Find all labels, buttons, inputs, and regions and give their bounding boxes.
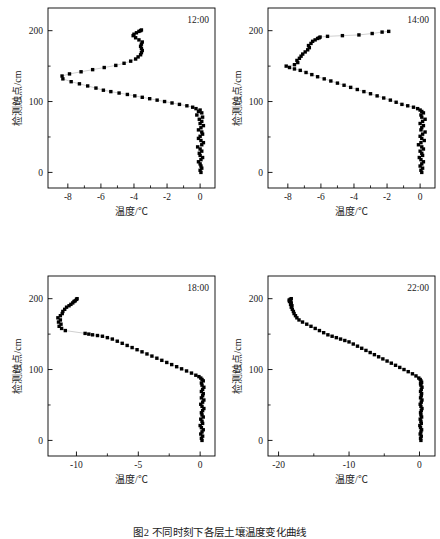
x-tick-label: -4 [350,192,358,202]
panel-time-label: 22:00 [407,283,429,293]
x-axis-title: 温度/℃ [115,473,148,485]
y-tick-label: 100 [29,97,44,107]
data-point [318,35,321,38]
data-point [385,359,388,362]
data-point [129,59,132,62]
data-point [389,98,392,101]
data-point [135,348,138,351]
data-line [286,31,425,172]
data-point [360,347,363,350]
chart-plot-0: -8-6-4-20010020012:00温度/℃检测触点/cm [0,0,220,268]
data-point [101,335,104,338]
panel-time-label: 14:00 [407,15,429,25]
data-point [102,89,105,92]
data-point [293,67,296,70]
data-point [155,98,158,101]
data-point [418,156,421,159]
data-point [422,124,425,127]
data-point [150,354,153,357]
data-point [60,74,63,77]
data-point [394,101,397,104]
x-tick-label: 0 [198,192,203,202]
panel-time-label: 18:00 [187,283,209,293]
data-point [400,103,403,106]
data-point [352,342,355,345]
data-point [130,346,133,349]
y-axis-title: 检测触点/cm [11,338,23,393]
data-point [419,141,422,144]
data-point [305,322,308,325]
data-point [420,145,423,148]
data-point [194,107,197,110]
x-tick-label: 0 [198,460,203,470]
data-point [314,327,317,330]
data-point [117,91,120,94]
x-tick-label: -10 [343,460,356,470]
data-point [170,101,173,104]
data-point [357,33,360,36]
data-point [369,92,372,95]
chart-plot-2: -10-50010020018:00温度/℃检测触点/cm [0,268,220,536]
plot-frame [268,8,435,188]
data-point [185,369,188,372]
data-point [322,331,325,334]
data-point [362,90,365,93]
data-point [341,34,344,37]
data-point [190,371,193,374]
data-point [326,333,329,336]
x-tick-label: 0 [418,192,423,202]
data-point [406,104,409,107]
data-point [140,350,143,353]
data-point [377,355,380,358]
data-point [316,75,319,78]
data-point [304,71,307,74]
x-tick-label: 0 [417,460,422,470]
data-point [381,357,384,360]
data-point [160,359,163,362]
data-point [91,68,94,71]
data-point [196,145,199,148]
data-point [185,104,188,107]
data-markers [56,297,205,442]
y-tick-label: 100 [249,365,264,375]
data-point [141,96,144,99]
data-point [78,82,81,85]
data-point [200,130,203,133]
data-point [398,366,401,369]
data-point [416,107,419,110]
data-point [418,149,421,152]
data-point [178,103,181,106]
y-tick-label: 200 [249,26,264,36]
data-point [197,375,200,378]
data-point [116,340,119,343]
data-point [122,62,125,65]
data-point [284,64,287,67]
data-point [140,28,143,31]
y-tick-label: 100 [249,97,264,107]
data-point [198,118,201,121]
panel-14-00: -8-6-4-20010020014:00温度/℃检测触点/cm [220,0,440,268]
data-point [125,344,128,347]
data-point [75,297,78,300]
x-tick-label: -6 [317,192,325,202]
data-point [148,97,151,100]
x-tick-label: -6 [97,192,105,202]
data-point [79,70,82,73]
y-tick-label: 0 [38,168,43,178]
data-point [335,336,338,339]
data-point [195,113,198,116]
data-point [137,38,140,41]
data-point [309,325,312,328]
data-point [106,336,109,339]
data-point [390,361,393,364]
data-point [64,329,67,332]
data-point [126,93,129,96]
x-axis-title: 温度/℃ [335,473,368,485]
data-point [423,130,426,133]
y-tick-label: 0 [38,436,43,446]
panel-18-00: -10-50010020018:00温度/℃检测触点/cm [0,268,220,536]
data-point [368,351,371,354]
data-point [330,335,333,338]
chart-plot-3: -20-100010020022:00温度/℃检测触点/cm [220,268,440,536]
